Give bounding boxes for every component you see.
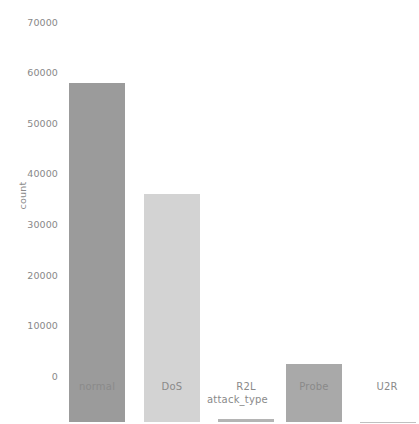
y-tick-label: 10000 xyxy=(10,321,58,331)
bar-normal xyxy=(69,83,125,422)
y-axis-tick-group: 70000 60000 50000 40000 30000 20000 1000… xyxy=(0,0,58,424)
bar-r2l xyxy=(218,419,274,422)
bar-probe xyxy=(286,364,342,422)
y-axis-title: count xyxy=(17,166,28,226)
y-tick-label: 60000 xyxy=(10,68,58,78)
y-tick-label: 20000 xyxy=(10,271,58,281)
x-axis-title: attack_type xyxy=(0,394,419,405)
y-tick-label: 50000 xyxy=(10,119,58,129)
y-tick-label: 0 xyxy=(10,372,58,382)
x-tick-label-u2r: U2R xyxy=(342,381,419,392)
y-tick-label: 70000 xyxy=(10,18,58,28)
bar-chart-figure: 70000 60000 50000 40000 30000 20000 1000… xyxy=(0,0,419,424)
